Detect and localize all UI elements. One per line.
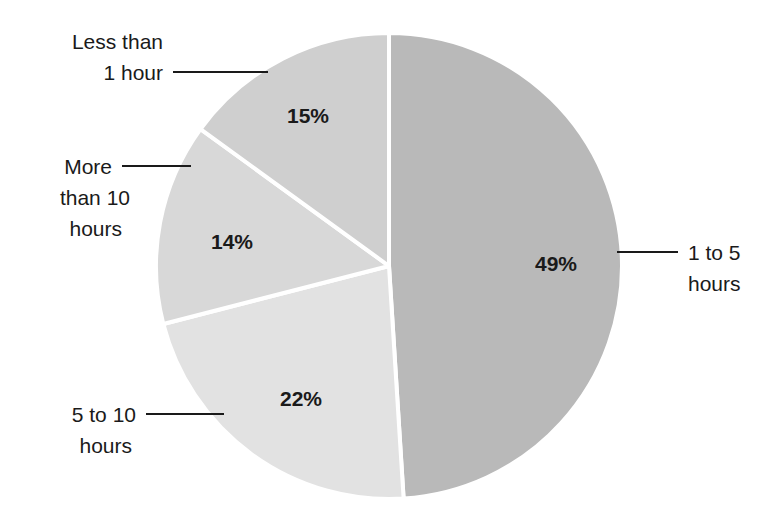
category-label-1-to-5-hours-line2: hours	[688, 272, 741, 295]
category-label-more-than-10-hours-line3: hours	[69, 217, 122, 240]
category-label-less-than-1-hour-line1: Less than	[72, 30, 163, 53]
pie-slice-1-to-5-hours[interactable]	[389, 33, 622, 499]
category-label-more-than-10-hours[interactable]: More than 10 hours	[60, 155, 130, 240]
category-label-5-to-10-hours[interactable]: 5 to 10 hours	[72, 403, 136, 457]
category-label-5-to-10-hours-line1: 5 to 10	[72, 403, 136, 426]
category-label-1-to-5-hours[interactable]: 1 to 5 hours	[688, 241, 741, 295]
pie-chart-figure: 49% 22% 14% 15% Less than 1 hour More th…	[0, 0, 779, 525]
value-label-1-to-5-hours: 49%	[535, 252, 577, 275]
category-label-less-than-1-hour[interactable]: Less than 1 hour	[72, 30, 163, 84]
category-label-more-than-10-hours-line1: More	[64, 155, 112, 178]
value-label-more-than-10-hours: 14%	[211, 230, 253, 253]
pie-chart-page: 49% 22% 14% 15% Less than 1 hour More th…	[0, 0, 779, 525]
value-label-less-than-1-hour: 15%	[287, 104, 329, 127]
category-label-less-than-1-hour-line2: 1 hour	[103, 61, 163, 84]
value-label-5-to-10-hours: 22%	[280, 387, 322, 410]
category-label-more-than-10-hours-line2: than 10	[60, 186, 130, 209]
category-label-5-to-10-hours-line2: hours	[79, 434, 132, 457]
category-label-1-to-5-hours-line1: 1 to 5	[688, 241, 741, 264]
